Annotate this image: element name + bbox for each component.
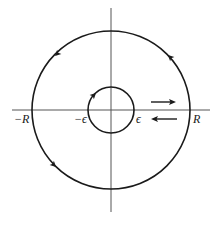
arrow-right-icon xyxy=(151,99,176,105)
label-neg-epsilon: −ϵ xyxy=(74,113,87,125)
arrow-left-icon xyxy=(151,116,177,122)
label-R: R xyxy=(193,113,200,125)
label-epsilon: ϵ xyxy=(136,113,141,125)
label-neg-R: −R xyxy=(14,113,29,125)
diagram-svg xyxy=(0,0,222,225)
contour-diagram: −R −ϵ ϵ R xyxy=(0,0,222,225)
arrow-outer-upper-left-icon xyxy=(53,50,61,58)
